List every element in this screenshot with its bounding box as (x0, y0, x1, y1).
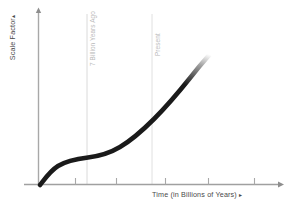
y-axis-label-arrow-icon: ▴ (10, 15, 16, 18)
chart-canvas (0, 0, 292, 207)
scale-factor-chart: Scale Factor▴ Time (in Billions of Years… (0, 0, 292, 207)
y-axis (36, 8, 41, 186)
x-axis-label-arrow-icon: ▸ (239, 192, 242, 198)
y-axis-label-text: Scale Factor (8, 18, 17, 60)
x-axis-label-text: Time (in Billions of Years) (152, 190, 237, 199)
scale-factor-curve-group (40, 30, 242, 185)
gridline-label-7-billion-years-ago: 7 Billion Years Ago (90, 11, 96, 66)
x-axis-label: Time (in Billions of Years) ▸ (152, 191, 242, 198)
scale-factor-curve (40, 30, 242, 185)
x-axis-arrowhead (278, 182, 284, 188)
y-axis-label: Scale Factor▴ (9, 7, 16, 69)
gridline-group (87, 14, 152, 184)
y-axis-arrowhead (36, 8, 41, 14)
x-axis-ticks (76, 178, 255, 185)
gridline-label-present: Present (155, 33, 161, 56)
x-axis (24, 178, 284, 187)
